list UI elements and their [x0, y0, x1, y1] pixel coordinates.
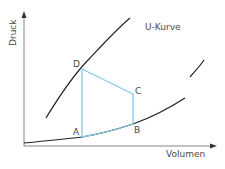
- point-a-label: A: [73, 128, 79, 137]
- pv-diagram: [0, 0, 225, 169]
- cycle-edge-cd: [82, 69, 133, 94]
- x-axis-label: Volumen: [166, 150, 205, 159]
- cycle-edge-ab: [82, 124, 133, 137]
- y-axis-label: Druck: [8, 20, 18, 47]
- y-axis-arrow-icon: [22, 11, 27, 18]
- lower-curve: [24, 98, 185, 143]
- u-curve-segment: [190, 60, 204, 77]
- point-b-label: B: [134, 126, 140, 135]
- point-c-label: C: [135, 87, 141, 96]
- x-axis-arrow-icon: [210, 144, 217, 149]
- curve-label: U-Kurve: [145, 23, 181, 32]
- u-curve: [46, 18, 130, 118]
- point-d-label: D: [73, 60, 80, 69]
